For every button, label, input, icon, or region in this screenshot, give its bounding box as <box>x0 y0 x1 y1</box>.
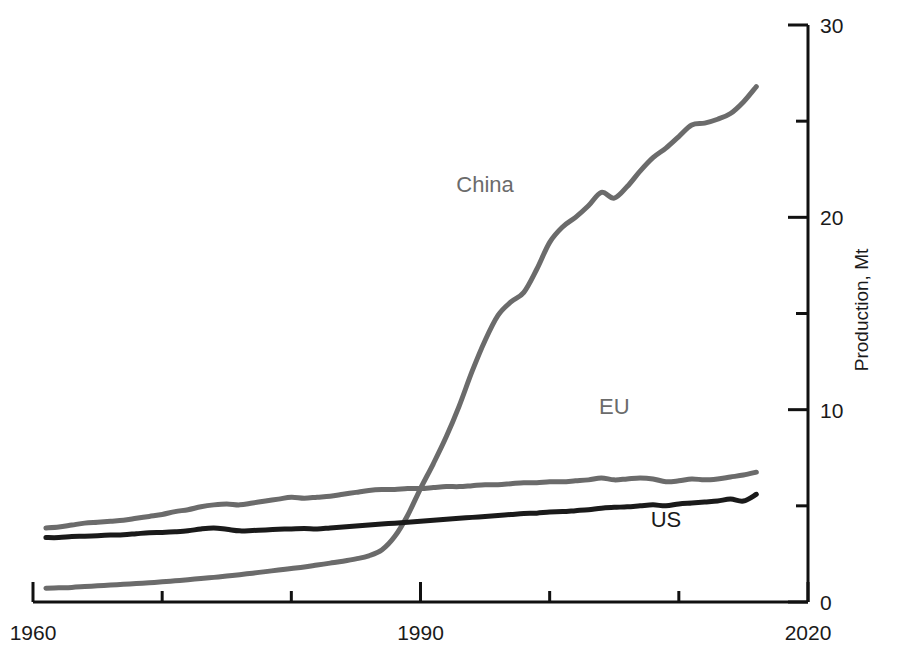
x-axis-tick-labels: 196019902020 <box>10 621 832 644</box>
series-label-china: China <box>456 172 514 197</box>
x-tick-label: 1990 <box>397 621 444 644</box>
series-label-eu: EU <box>599 394 630 419</box>
y-axis-title: Production, Mt <box>851 248 872 371</box>
y-tick-label: 20 <box>820 206 843 229</box>
line-chart: 196019902020 0102030 Production, Mt Chin… <box>0 0 902 662</box>
y-tick-label: 10 <box>820 399 843 422</box>
x-axis: 196019902020 <box>10 582 832 644</box>
series-label-us: US <box>651 507 682 532</box>
y-tick-label: 30 <box>820 14 843 37</box>
x-tick-label: 1960 <box>10 621 57 644</box>
y-axis-tick-labels: 0102030 <box>820 14 843 614</box>
y-axis-ticks <box>788 25 808 602</box>
y-axis: 0102030 Production, Mt <box>788 14 872 614</box>
chart-root: 196019902020 0102030 Production, Mt Chin… <box>0 0 902 662</box>
y-tick-label: 0 <box>820 591 832 614</box>
x-tick-label: 2020 <box>785 621 832 644</box>
